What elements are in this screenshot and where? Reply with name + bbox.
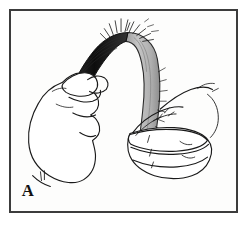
figure-plate: A xyxy=(0,0,247,228)
panel-label-glyph: A xyxy=(22,181,34,200)
illustration-canvas: A xyxy=(11,11,236,211)
figure-frame: A xyxy=(9,9,238,213)
right-finger-band-1 xyxy=(129,129,208,151)
